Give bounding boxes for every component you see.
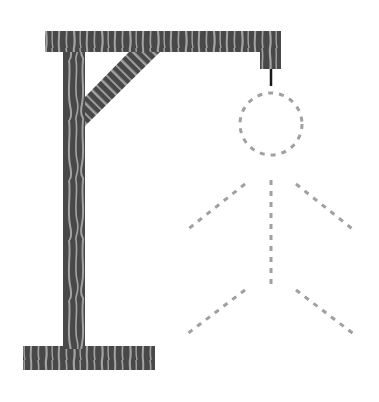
hangman-canvas	[0, 0, 379, 402]
gallows-beam	[45, 31, 281, 52]
gallows-base	[23, 346, 155, 370]
hangman-figure	[187, 93, 355, 335]
figure-left-leg	[187, 290, 245, 334]
gallows-hanger	[260, 52, 281, 69]
figure-left-arm	[187, 184, 245, 230]
hangman-drawing	[0, 0, 379, 402]
figure-head	[240, 93, 302, 155]
figure-right-arm	[296, 184, 355, 231]
gallows	[23, 31, 281, 370]
gallows-post	[63, 31, 85, 349]
gallows-brace	[85, 52, 160, 126]
figure-right-leg	[296, 290, 355, 335]
